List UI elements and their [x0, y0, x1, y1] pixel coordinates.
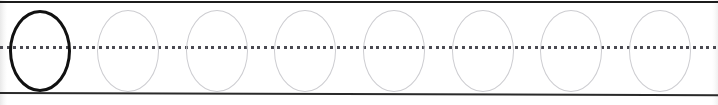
letter-o-trace-glyph: [186, 10, 248, 92]
letter-slot-4[interactable]: [274, 10, 336, 92]
letter-o-trace-glyph: [363, 10, 425, 92]
letter-slot-7[interactable]: [540, 10, 602, 92]
letter-slot-1[interactable]: [9, 10, 71, 92]
letter-glyph-layer: [0, 0, 718, 105]
letter-slot-2[interactable]: [97, 10, 159, 92]
letter-o-trace-glyph: [540, 10, 602, 92]
letter-o-model-glyph: [9, 10, 71, 92]
letter-o-trace-glyph: [629, 10, 691, 92]
letter-o-trace-glyph: [452, 10, 514, 92]
letter-slot-5[interactable]: [363, 10, 425, 92]
letter-slot-6[interactable]: [452, 10, 514, 92]
letter-o-trace-glyph: [274, 10, 336, 92]
letter-slot-3[interactable]: [186, 10, 248, 92]
letter-o-trace-glyph: [97, 10, 159, 92]
handwriting-practice-row: [0, 0, 718, 105]
letter-slot-8[interactable]: [629, 10, 691, 92]
